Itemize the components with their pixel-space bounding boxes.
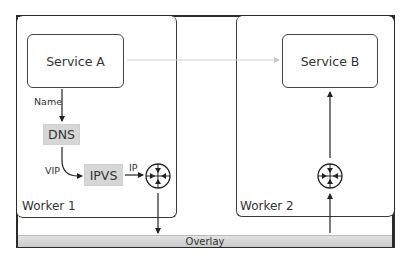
ipvs-label: IPVS xyxy=(90,168,118,183)
service-b-box: Service B xyxy=(282,34,378,88)
ipvs-box: IPVS xyxy=(84,164,123,186)
dns-box: DNS xyxy=(43,124,80,145)
router-1-icon xyxy=(146,164,170,188)
worker-1-label: Worker 1 xyxy=(22,199,76,213)
service-a-box: Service A xyxy=(27,34,124,88)
dns-label: DNS xyxy=(48,127,75,142)
name-edge-label: Name xyxy=(34,96,62,107)
service-a-label: Service A xyxy=(46,54,105,69)
vip-edge-label: VIP xyxy=(45,165,60,176)
ip-edge-label: IP xyxy=(129,162,138,173)
worker-2-label: Worker 2 xyxy=(240,199,294,213)
service-b-label: Service B xyxy=(301,54,360,69)
router-2-icon xyxy=(318,164,342,188)
vip-arrow xyxy=(62,147,82,176)
